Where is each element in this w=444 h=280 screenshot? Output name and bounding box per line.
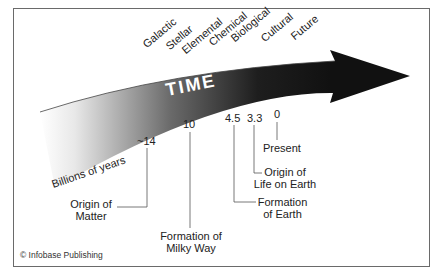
event-formation-of-earth: Formation of Earth [255,196,310,220]
event-line: of Earth [255,208,310,220]
tick-4-5: 4.5 [225,112,240,124]
event-line: Milky Way [156,242,226,254]
tick-14: ~14 [137,135,156,147]
tick-3-3: 3.3 [247,112,262,124]
event-line: Formation of [156,230,226,242]
event-line: Formation [255,196,310,208]
event-line: Matter [66,210,116,222]
event-line: Life on Earth [252,178,318,190]
copyright-credit: © Infobase Publishing [20,250,103,260]
event-origin-of-matter: Origin of Matter [66,198,116,222]
tick-0: 0 [274,108,280,120]
tick-10: 10 [183,118,195,130]
event-line: Origin of [252,166,318,178]
event-present: Present [263,142,301,154]
event-line: Origin of [66,198,116,210]
event-milky-way: Formation of Milky Way [156,230,226,254]
event-origin-of-life: Origin of Life on Earth [252,166,318,190]
